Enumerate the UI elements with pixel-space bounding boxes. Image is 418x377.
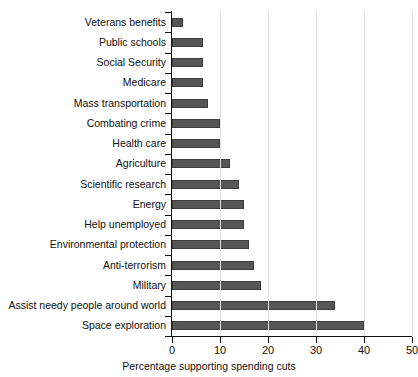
y-axis-tick bbox=[165, 134, 172, 135]
bar bbox=[172, 18, 183, 27]
y-axis-category-label: Help unemployed bbox=[84, 219, 166, 230]
y-axis-tick bbox=[165, 316, 172, 317]
plot-area bbox=[172, 12, 412, 336]
x-axis-tick-label: 20 bbox=[262, 344, 274, 356]
y-axis-tick bbox=[165, 73, 172, 74]
bar-chart: Veterans benefitsPublic schoolsSocial Se… bbox=[0, 0, 418, 377]
gridline bbox=[220, 12, 221, 336]
y-axis-tick bbox=[165, 174, 172, 175]
bar bbox=[172, 261, 254, 270]
y-axis-category-label: Social Security bbox=[97, 57, 166, 68]
x-axis-tick-label: 40 bbox=[358, 344, 370, 356]
y-axis-category-label: Public schools bbox=[99, 37, 166, 48]
y-axis-category-label: Health care bbox=[112, 138, 166, 149]
y-axis-tick bbox=[165, 53, 172, 54]
y-axis-category-label: Agriculture bbox=[116, 158, 166, 169]
y-axis-tick bbox=[165, 336, 172, 337]
bar bbox=[172, 301, 335, 310]
bar bbox=[172, 58, 203, 67]
x-axis-tick bbox=[412, 337, 413, 343]
gridline bbox=[268, 12, 269, 336]
x-axis-title: Percentage supporting spending cuts bbox=[0, 360, 418, 372]
x-axis-tick bbox=[268, 337, 269, 343]
bar bbox=[172, 200, 244, 209]
bar bbox=[172, 180, 239, 189]
gridline bbox=[364, 12, 365, 336]
y-axis-tick bbox=[165, 215, 172, 216]
gridline bbox=[412, 12, 413, 336]
x-axis-tick-label: 10 bbox=[214, 344, 226, 356]
y-axis-category-label: Veterans benefits bbox=[85, 17, 166, 28]
y-axis-category-label: Military bbox=[133, 280, 166, 291]
y-axis-category-label: Environmental protection bbox=[50, 239, 166, 250]
y-axis-tick bbox=[165, 235, 172, 236]
y-axis-tick bbox=[165, 194, 172, 195]
x-axis-tick-label: 50 bbox=[406, 344, 418, 356]
y-axis-category-label: Scientific research bbox=[80, 179, 166, 190]
bar bbox=[172, 78, 203, 87]
x-axis-tick-label: 0 bbox=[169, 344, 175, 356]
y-axis-category-label: Space exploration bbox=[82, 320, 166, 331]
y-axis-tick bbox=[165, 275, 172, 276]
x-axis-tick bbox=[364, 337, 365, 343]
bar bbox=[172, 38, 203, 47]
x-axis-tick bbox=[316, 337, 317, 343]
bar bbox=[172, 139, 220, 148]
y-axis-tick bbox=[165, 154, 172, 155]
y-axis-tick bbox=[165, 93, 172, 94]
bar bbox=[172, 119, 220, 128]
y-axis-category-label: Medicare bbox=[123, 77, 166, 88]
bar bbox=[172, 281, 261, 290]
y-axis-category-label: Mass transportation bbox=[74, 98, 166, 109]
y-axis-category-label: Combating crime bbox=[87, 118, 166, 129]
x-axis-line bbox=[171, 336, 412, 337]
bars-group bbox=[172, 12, 412, 336]
y-axis-category-label: Assist needy people around world bbox=[8, 300, 166, 311]
y-axis-category-label: Energy bbox=[133, 199, 166, 210]
y-axis-tick bbox=[165, 32, 172, 33]
gridline bbox=[316, 12, 317, 336]
x-axis-tick bbox=[172, 337, 173, 343]
bar bbox=[172, 240, 249, 249]
x-axis-tick bbox=[220, 337, 221, 343]
x-axis-tick-label: 30 bbox=[310, 344, 322, 356]
y-axis-tick bbox=[165, 255, 172, 256]
y-axis-tick bbox=[165, 12, 172, 13]
y-axis-category-label: Anti-terrorism bbox=[103, 260, 166, 271]
bar bbox=[172, 99, 208, 108]
y-axis-tick bbox=[165, 113, 172, 114]
y-axis-tick bbox=[165, 296, 172, 297]
bar bbox=[172, 220, 244, 229]
